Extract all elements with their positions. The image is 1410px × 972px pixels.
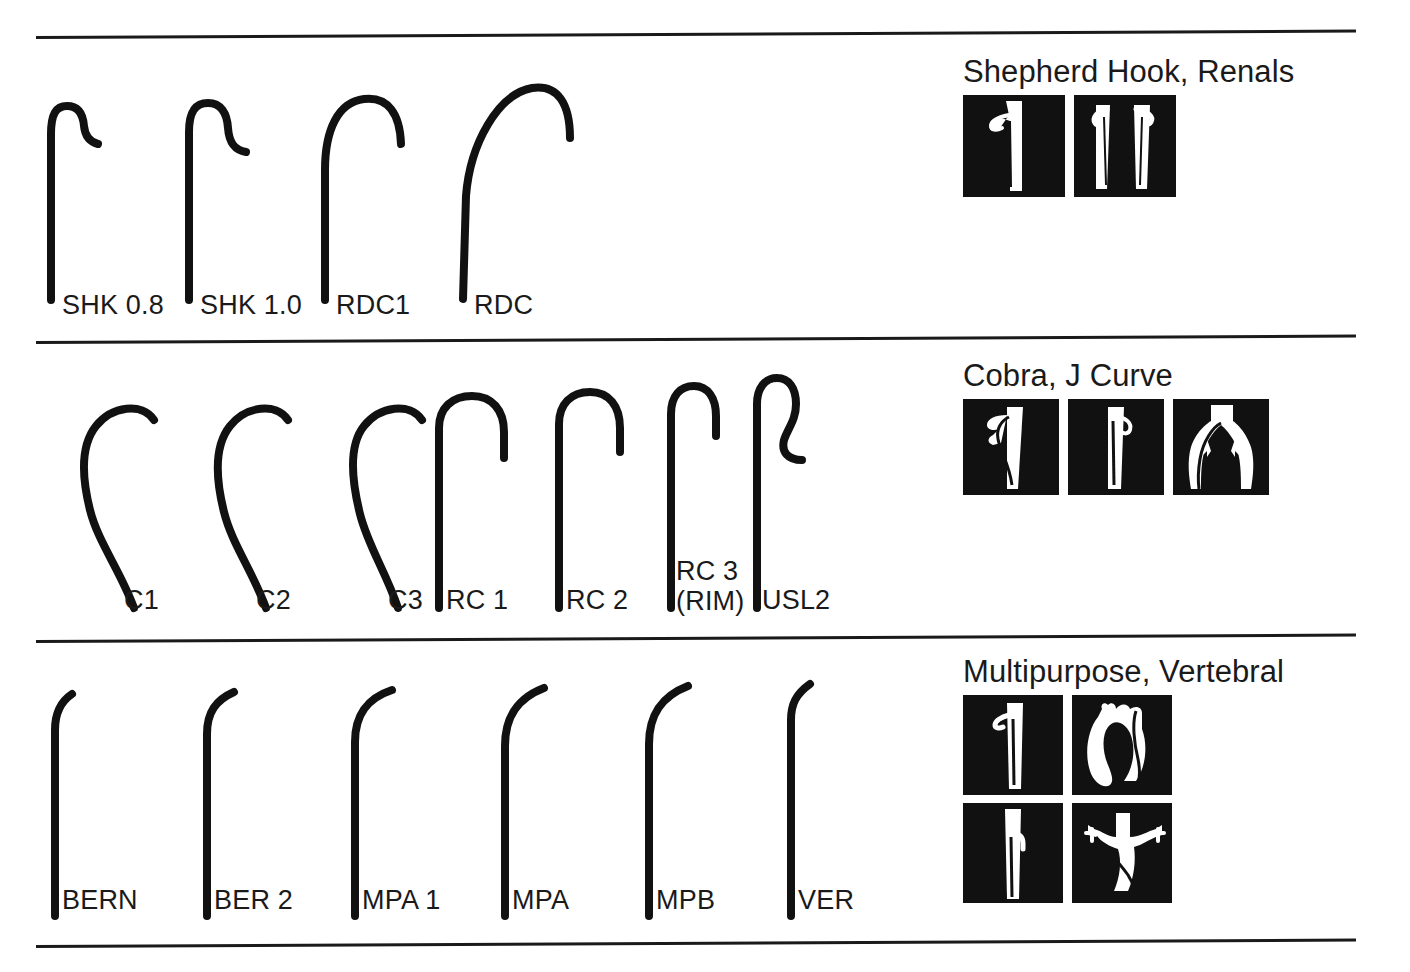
thumb-vertebral-in-vessel xyxy=(963,803,1063,903)
divider-rule-bottom xyxy=(36,939,1356,948)
catheter-shk-0-8 xyxy=(40,52,150,302)
catheter-shk-1-0 xyxy=(178,52,298,302)
panel-title-cobra-j-curve: Cobra, J Curve xyxy=(963,358,1269,394)
catheter-mpb xyxy=(638,668,758,918)
catheter-label-shk-1-0: SHK 1.0 xyxy=(200,290,302,320)
catheter-ber-2 xyxy=(196,668,306,918)
catheter-c3 xyxy=(306,360,441,610)
catheter-ver xyxy=(780,668,890,918)
thumbnail-column-left xyxy=(963,695,1063,903)
catheter-c1 xyxy=(42,360,177,610)
catheter-mpa xyxy=(494,668,614,918)
thumb-aortic-bifurcation xyxy=(1173,399,1269,495)
thumb-multipurpose-in-vessel xyxy=(963,695,1063,795)
thumbnail-column-right xyxy=(1072,695,1172,903)
divider-rule-row1-row2 xyxy=(36,335,1356,344)
catheter-label-c2: C2 xyxy=(256,585,291,615)
catheter-rc-1 xyxy=(428,360,548,610)
catheter-label-usl2: USL2 xyxy=(762,585,830,615)
catheter-c2 xyxy=(174,360,309,610)
thumb-renal-catheter-bilateral xyxy=(1074,95,1176,197)
panel-title-multipurpose-vertebral: Multipurpose, Vertebral xyxy=(963,654,1284,690)
catheter-label-bern: BERN xyxy=(62,885,138,915)
thumbnail-group-cobra-j-curve xyxy=(963,399,1269,495)
catheter-label-ver: VER xyxy=(798,885,854,915)
catheter-label-mpb: MPB xyxy=(656,885,715,915)
catheter-label-rc-3-rim: RC 3 (RIM) xyxy=(676,556,744,616)
catheter-shape-chart: SHK 0.8 SHK 1.0 RDC1 RDC Shepherd Hook, … xyxy=(0,0,1410,972)
thumb-arch-branch-vessels xyxy=(1072,803,1172,903)
catheter-rdc xyxy=(452,46,592,301)
thumb-renal-catheter-in-aorta xyxy=(963,95,1065,197)
catheter-mpa-1 xyxy=(344,668,464,918)
panel-cobra-j-curve: Cobra, J Curve xyxy=(963,358,1269,495)
catheter-label-mpa-1: MPA 1 xyxy=(362,885,441,915)
thumb-aortic-arch xyxy=(1072,695,1172,795)
catheter-label-ber-2: BER 2 xyxy=(214,885,293,915)
catheter-label-rc-2: RC 2 xyxy=(566,585,628,615)
thumbnail-group-shepherd-hook-renals xyxy=(963,95,1294,197)
catheter-bern xyxy=(44,668,154,918)
panel-shepherd-hook-renals: Shepherd Hook, Renals xyxy=(963,54,1294,197)
thumb-cobra-in-renal-artery xyxy=(963,399,1059,495)
panel-multipurpose-vertebral: Multipurpose, Vertebral xyxy=(963,654,1284,903)
thumbnail-group-multipurpose-vertebral xyxy=(963,695,1284,903)
divider-rule-top xyxy=(36,30,1356,39)
catheter-label-mpa: MPA xyxy=(512,885,569,915)
divider-rule-row2-row3 xyxy=(36,634,1356,643)
catheter-rc-2 xyxy=(548,360,668,610)
catheter-label-c3: C3 xyxy=(388,585,423,615)
catheter-label-c1: C1 xyxy=(124,585,159,615)
catheter-label-rc-1: RC 1 xyxy=(446,585,508,615)
catheter-label-rdc: RDC xyxy=(474,290,533,320)
catheter-usl2 xyxy=(746,360,856,610)
catheter-label-rdc1: RDC1 xyxy=(336,290,410,320)
panel-title-shepherd-hook-renals: Shepherd Hook, Renals xyxy=(963,54,1294,90)
catheter-rdc1 xyxy=(314,52,434,302)
catheter-label-shk-0-8: SHK 0.8 xyxy=(62,290,164,320)
thumb-j-curve-in-vessel xyxy=(1068,399,1164,495)
